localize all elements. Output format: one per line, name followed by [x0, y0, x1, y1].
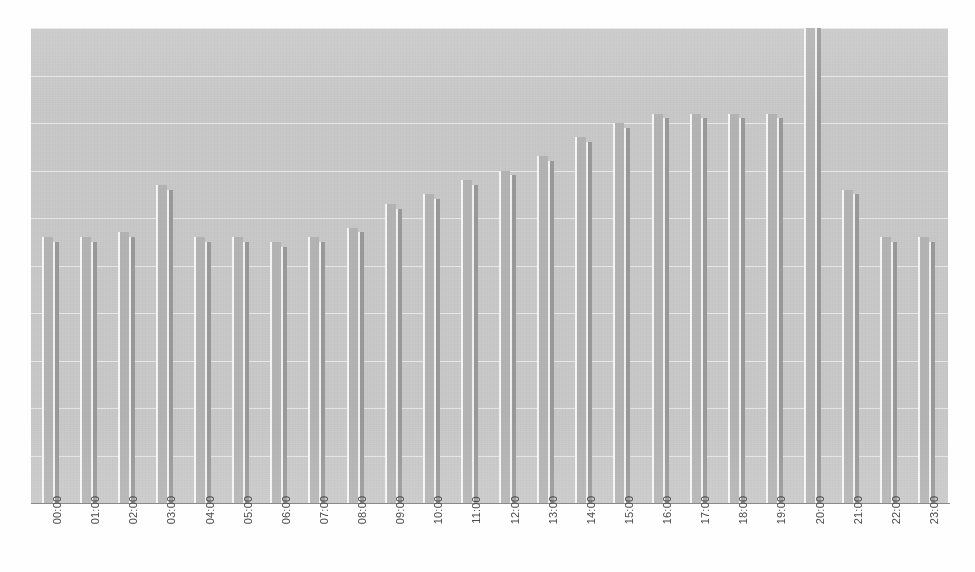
x-tick-cell: 15:00	[604, 506, 642, 566]
x-tick-cell: 00:00	[32, 506, 70, 566]
bar[interactable]	[893, 242, 897, 503]
bar[interactable]	[120, 232, 129, 503]
x-tick-cell: 07:00	[299, 506, 337, 566]
x-tick-cell: 04:00	[185, 506, 223, 566]
bar[interactable]	[665, 118, 669, 503]
bar[interactable]	[44, 237, 53, 503]
bar[interactable]	[654, 114, 663, 504]
x-tick-label: 18:00	[737, 496, 749, 525]
bar-group[interactable]	[223, 28, 261, 503]
bar[interactable]	[245, 242, 249, 503]
bar-group[interactable]	[871, 28, 909, 503]
bar[interactable]	[158, 185, 167, 503]
bar[interactable]	[436, 199, 440, 503]
bar[interactable]	[349, 228, 358, 504]
bar-group[interactable]	[375, 28, 413, 503]
x-tick-label: 13:00	[547, 496, 559, 525]
bar[interactable]	[501, 171, 510, 504]
bar[interactable]	[474, 185, 478, 503]
bar[interactable]	[692, 114, 701, 504]
bar-group[interactable]	[680, 28, 718, 503]
bar[interactable]	[588, 142, 592, 503]
x-tick-label: 21:00	[852, 496, 864, 525]
bar[interactable]	[626, 128, 630, 503]
bar[interactable]	[806, 28, 815, 503]
bar[interactable]	[310, 237, 319, 503]
bar-group[interactable]	[490, 28, 528, 503]
bar-group[interactable]	[451, 28, 489, 503]
bar[interactable]	[931, 242, 935, 503]
plot-area	[31, 28, 948, 503]
x-tick-label: 11:00	[470, 496, 482, 524]
bar-group[interactable]	[185, 28, 223, 503]
x-axis-tick-labels: 00:0001:0002:0003:0004:0005:0006:0007:00…	[31, 506, 948, 566]
bar[interactable]	[615, 123, 624, 503]
x-tick-label: 05:00	[242, 496, 254, 525]
x-tick-label: 23:00	[928, 496, 940, 525]
bar-group[interactable]	[70, 28, 108, 503]
bar[interactable]	[272, 242, 281, 503]
bar-group[interactable]	[909, 28, 947, 503]
bar-group[interactable]	[566, 28, 604, 503]
x-tick-cell: 06:00	[261, 506, 299, 566]
bar[interactable]	[55, 242, 59, 503]
bar[interactable]	[882, 237, 891, 503]
x-tick-label: 02:00	[127, 496, 139, 525]
x-tick-label: 16:00	[661, 496, 673, 525]
x-tick-label: 12:00	[509, 496, 521, 525]
bar[interactable]	[730, 114, 739, 504]
bar[interactable]	[321, 242, 325, 503]
bar[interactable]	[550, 161, 554, 503]
bar-group[interactable]	[718, 28, 756, 503]
bar-group[interactable]	[108, 28, 146, 503]
bar-group[interactable]	[795, 28, 833, 503]
x-tick-label: 10:00	[432, 496, 444, 525]
bar[interactable]	[577, 137, 586, 503]
x-tick-cell: 23:00	[909, 506, 947, 566]
bar[interactable]	[425, 194, 434, 503]
bar-group[interactable]	[32, 28, 70, 503]
bar-group[interactable]	[146, 28, 184, 503]
bar[interactable]	[196, 237, 205, 503]
bar[interactable]	[398, 209, 402, 504]
x-tick-cell: 22:00	[871, 506, 909, 566]
x-tick-label: 14:00	[585, 496, 597, 525]
bar-group[interactable]	[261, 28, 299, 503]
bar[interactable]	[82, 237, 91, 503]
bar[interactable]	[920, 237, 929, 503]
bar[interactable]	[768, 114, 777, 504]
x-tick-cell: 02:00	[108, 506, 146, 566]
bar[interactable]	[741, 118, 745, 503]
bar[interactable]	[131, 237, 135, 503]
bar[interactable]	[207, 242, 211, 503]
x-tick-cell: 16:00	[642, 506, 680, 566]
x-tick-label: 19:00	[775, 496, 787, 525]
bar[interactable]	[844, 190, 853, 504]
bar-group[interactable]	[756, 28, 794, 503]
bar[interactable]	[283, 247, 287, 504]
bar[interactable]	[234, 237, 243, 503]
bar-group[interactable]	[299, 28, 337, 503]
bar-group[interactable]	[413, 28, 451, 503]
x-tick-label: 00:00	[51, 496, 63, 525]
x-tick-label: 06:00	[280, 496, 292, 525]
bar-group[interactable]	[604, 28, 642, 503]
bar-group[interactable]	[642, 28, 680, 503]
bar[interactable]	[539, 156, 548, 503]
bar[interactable]	[703, 118, 707, 503]
bar[interactable]	[512, 175, 516, 503]
bar[interactable]	[360, 232, 364, 503]
bar-group[interactable]	[528, 28, 566, 503]
x-tick-label: 15:00	[623, 496, 635, 525]
x-tick-cell: 03:00	[146, 506, 184, 566]
bar[interactable]	[387, 204, 396, 503]
bar[interactable]	[463, 180, 472, 503]
bar[interactable]	[779, 118, 783, 503]
bar-group[interactable]	[337, 28, 375, 503]
bar[interactable]	[169, 190, 173, 504]
bar[interactable]	[817, 28, 821, 503]
bar[interactable]	[855, 194, 859, 503]
bar-group[interactable]	[833, 28, 871, 503]
x-tick-cell: 17:00	[680, 506, 718, 566]
bar[interactable]	[93, 242, 97, 503]
